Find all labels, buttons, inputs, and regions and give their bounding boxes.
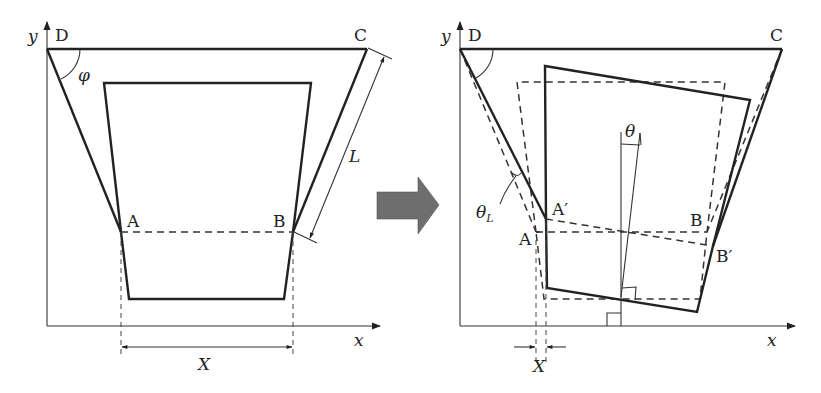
length-l-label: L bbox=[348, 146, 360, 166]
theta-cap-line bbox=[621, 144, 640, 145]
theta-tick-right bbox=[640, 133, 641, 145]
x-axis-label: x bbox=[767, 330, 777, 350]
original-link-cb bbox=[707, 49, 782, 232]
right-panel: y x θL θ D C A′ bbox=[440, 22, 795, 376]
right-angle-marker-body bbox=[622, 287, 636, 300]
point-a-label: A bbox=[518, 229, 532, 249]
four-bar-linkage-diagram: y x φ D C A B L X y x bbox=[0, 0, 821, 393]
point-c-label: C bbox=[770, 25, 783, 45]
point-d-label: D bbox=[55, 25, 69, 45]
displaced-coupler-body bbox=[545, 66, 750, 312]
l-ext-tick-b bbox=[294, 232, 317, 243]
transition-arrow-icon bbox=[377, 177, 439, 234]
l-dimension-line bbox=[310, 57, 384, 238]
theta-l-angle-arc bbox=[512, 173, 521, 176]
theta-l-leader bbox=[500, 176, 516, 204]
coupler-body bbox=[104, 83, 311, 299]
x-axis-label: x bbox=[354, 330, 364, 350]
theta-label: θ bbox=[625, 121, 635, 141]
l-ext-tick-c bbox=[368, 48, 392, 59]
point-b-prime-label: B′ bbox=[716, 246, 732, 266]
point-b-label: B bbox=[273, 211, 286, 231]
y-axis-label: y bbox=[440, 26, 451, 46]
point-a-label: A bbox=[126, 211, 140, 231]
y-axis-label: y bbox=[27, 26, 38, 46]
displaced-link-da bbox=[460, 49, 546, 219]
original-link-da bbox=[460, 49, 536, 232]
phi-angle-arc bbox=[476, 49, 493, 78]
point-c-label: C bbox=[354, 25, 367, 45]
point-d-label: D bbox=[468, 25, 482, 45]
point-a-prime-label: A′ bbox=[551, 199, 568, 219]
tilted-centerline bbox=[621, 133, 640, 297]
phi-label: φ bbox=[78, 65, 90, 85]
right-angle-marker-axis bbox=[607, 313, 621, 326]
width-x-label: X bbox=[196, 354, 211, 374]
point-b-label: B bbox=[690, 210, 703, 230]
width-x-label: X bbox=[531, 356, 546, 376]
displaced-link-cb bbox=[713, 49, 782, 246]
left-panel: y x φ D C A B L X bbox=[27, 22, 392, 374]
theta-l-label: θL bbox=[476, 202, 494, 225]
